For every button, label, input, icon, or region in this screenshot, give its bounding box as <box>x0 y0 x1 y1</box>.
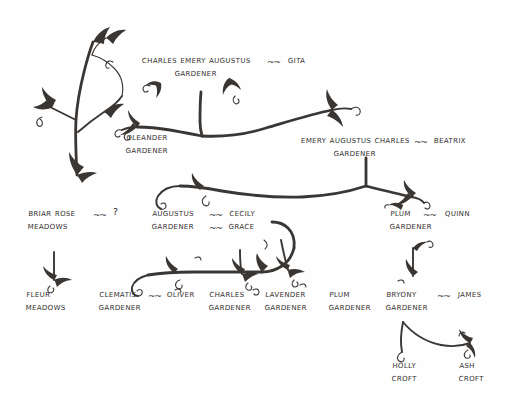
node-bryony[interactable]: Bryony Gardener <box>385 288 429 313</box>
node-gita[interactable]: Gita <box>288 54 306 65</box>
decor-tendril-gen1-right <box>223 78 241 104</box>
node-given-name: Bryony <box>386 288 429 301</box>
node-surname: Meadows <box>27 220 75 233</box>
node-surname: Gardener <box>125 144 168 157</box>
node-surname: Gardener <box>264 301 307 314</box>
node-surname: Gardener <box>98 301 141 314</box>
connector-gen1-descent <box>115 89 360 137</box>
family-tree-canvas: .ln { fill:none; stroke:#3a3633; stroke-… <box>0 0 520 413</box>
union-symbol-briarrose-unknown: ~~ <box>93 210 106 220</box>
decor-flourish-bryony-top <box>398 280 404 283</box>
node-given-name: Charles <box>209 288 252 301</box>
node-beatrix[interactable]: Beatrix <box>434 134 466 145</box>
node-given-name: Oleander <box>126 131 169 144</box>
node-emery-augustus-charles[interactable]: Emery Augustus Charles Gardener <box>292 134 417 159</box>
node-given-name: Emery Augustus Charles <box>293 134 418 147</box>
node-given-name: Fleur <box>26 288 67 301</box>
decor-flourish-charles-child <box>253 289 259 295</box>
node-quinn[interactable]: Quinn <box>445 207 470 218</box>
node-oleander[interactable]: Oleander Gardener <box>125 131 169 156</box>
node-fleur[interactable]: Fleur Meadows <box>25 288 66 313</box>
node-surname: Gardener <box>208 301 251 314</box>
node-augustus[interactable]: Augustus Gardener <box>151 207 195 232</box>
union-symbol-emery-beatrix: ~~ <box>414 137 427 147</box>
union-symbol-charles-gita: ~~ <box>267 57 280 67</box>
node-given-name: Holly <box>392 359 418 372</box>
node-charles-emery-augustus[interactable]: Charles Emery Augustus Gardener <box>133 54 258 79</box>
node-charles[interactable]: Charles Gardener <box>208 288 252 313</box>
node-given-name: Cecily <box>229 207 255 220</box>
node-given-name: Charles Emery Augustus <box>134 54 259 67</box>
connector-briarrose-fleur <box>43 252 72 293</box>
node-clematis[interactable]: Clematis Gardener <box>98 288 142 313</box>
connector-plum-bryony <box>406 241 433 276</box>
node-given-name: Ash <box>459 359 485 372</box>
node-surname: Gardener <box>385 301 428 314</box>
node-surname: Croft <box>458 372 484 385</box>
union-symbol-bryony-james: ~~ <box>437 291 450 301</box>
connector-bryony-children <box>398 322 476 362</box>
union-symbol-gardener-grace: ~~ <box>209 223 222 233</box>
decor-tendril-gen1-left <box>143 81 161 98</box>
connector-augustus-children <box>132 222 305 296</box>
node-surname: Gardener <box>389 220 432 233</box>
node-surname: Gardener <box>133 67 258 80</box>
node-lavender[interactable]: Lavender Gardener <box>264 288 308 313</box>
node-surname: Meadows <box>25 301 66 314</box>
decor-flourish-lavender-top <box>300 284 306 287</box>
node-surname: Grace <box>228 220 254 233</box>
connector-gen2-sibling-bar <box>156 158 430 209</box>
node-given-name: Briar Rose <box>28 207 76 220</box>
node-given-name: Augustus <box>152 207 195 220</box>
union-symbol-plum-quinn: ~~ <box>423 210 436 220</box>
node-surname: Gardener <box>292 147 417 160</box>
node-surname: Croft <box>391 372 417 385</box>
union-symbol-clematis-oliver: ~~ <box>148 291 161 301</box>
node-briar-rose[interactable]: Briar Rose Meadows <box>27 207 75 232</box>
node-holly[interactable]: Holly Croft <box>391 359 418 384</box>
node-given-name: Plum <box>329 288 372 301</box>
decorative-vine-icon <box>33 27 126 183</box>
node-ash[interactable]: Ash Croft <box>458 359 485 384</box>
union-symbol-augustus-cecily: ~~ <box>209 210 222 220</box>
node-plum-child[interactable]: Plum Gardener <box>328 288 372 313</box>
node-given-name: Lavender <box>265 288 308 301</box>
node-oliver[interactable]: Oliver <box>167 288 195 299</box>
node-cecily[interactable]: Cecily Grace <box>228 207 255 232</box>
node-surname: Gardener <box>328 301 371 314</box>
tree-artwork: .ln { fill:none; stroke:#3a3633; stroke-… <box>0 0 520 413</box>
node-surname: Gardener <box>151 220 194 233</box>
node-given-name: Clematis <box>99 288 142 301</box>
node-james[interactable]: James <box>458 288 482 299</box>
node-briar-rose-spouse[interactable]: ? <box>113 206 119 217</box>
